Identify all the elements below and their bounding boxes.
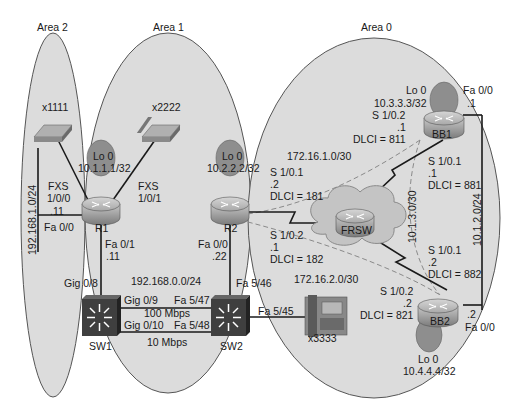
area-2-label: Area 2 <box>37 21 68 33</box>
r2-s101-host: .2 <box>270 178 279 190</box>
r1-fa01-label: Fa 0/1 <box>105 238 135 250</box>
r2-fa00-host: .22 <box>212 250 227 262</box>
sw2-fa548-label: Fa 5/48 <box>174 319 210 331</box>
frsw-label: FRSW <box>341 224 372 236</box>
switch-sw2[interactable] <box>211 295 250 336</box>
sw2-fa545-label: Fa 5/45 <box>258 305 294 317</box>
bb2-loopback-label: Lo 0 <box>418 353 438 365</box>
fr-r2-bb2-subnet: 172.16.2.0/30 <box>294 273 358 285</box>
phone-x3333[interactable] <box>305 295 347 337</box>
sw2-label: SW2 <box>220 340 243 352</box>
sw1-label: SW1 <box>89 340 112 352</box>
area-1-label: Area 1 <box>153 21 184 33</box>
r2-loopback-label: Lo 0 <box>222 150 242 162</box>
sw1-gig010-label: Gig 0/10 <box>124 319 164 331</box>
r2-s102-host: .1 <box>270 241 279 253</box>
bb1-s102-dlci: DLCI = 811 <box>353 133 406 145</box>
r2-fa00-label: Fa 0/0 <box>198 238 228 250</box>
bb1-s101-name: S 1/0.1 <box>428 155 461 167</box>
bb1-fa00-label: Fa 0/0 <box>463 84 493 96</box>
area1-subnet-label: 192.168.0.0/24 <box>131 275 201 287</box>
bb2-s101-host: .2 <box>428 256 437 268</box>
r2-s101-name: S 1/0.1 <box>270 166 303 178</box>
bb1-s102-name: S 1/0.2 <box>372 109 405 121</box>
bb2-s102-name: S 1/0.2 <box>380 285 413 297</box>
bb2-fa00-label: Fa 0/0 <box>465 321 495 333</box>
bb2-s102-host: .2 <box>403 297 412 309</box>
fr-bb1-bb2-subnet: 10.1.3.0/30 <box>406 190 418 243</box>
network-topology-diagram <box>0 0 519 399</box>
r1-label: R1 <box>95 222 108 234</box>
r1-fxs-101-line1: FXS <box>138 180 158 192</box>
bb-lan-subnet: 10.1.2.0/24 <box>471 193 483 246</box>
r1-fa00-label: Fa 0/0 <box>44 221 74 233</box>
sw2-fa547-label: Fa 5/47 <box>174 294 210 306</box>
trunk2-speed-label: 10 Mbps <box>147 336 187 348</box>
sw1-gig09-label: Gig 0/9 <box>124 294 158 306</box>
bb1-s101-host: .1 <box>428 167 437 179</box>
r1-fxs-101-line2: 1/0/1 <box>138 192 161 204</box>
r2-s102-dlci: DLCI = 182 <box>270 253 323 265</box>
bb1-label: BB1 <box>432 128 452 140</box>
r2-label: R2 <box>224 222 237 234</box>
phone-x2222-label: x2222 <box>152 101 181 113</box>
trunk1-speed-label: 100 Mbps <box>144 307 190 319</box>
r1-loopback-ip: 10.1.1.1/32 <box>78 162 131 174</box>
r1-fxs-100-line2: 1/0/0 <box>47 192 70 204</box>
phone-x3333-label: x3333 <box>308 332 337 344</box>
bb2-s101-name: S 1/0.1 <box>428 244 461 256</box>
bb1-s101-dlci: DLCI = 881 <box>428 179 481 191</box>
bb2-fa00-host: .2 <box>467 308 476 320</box>
switch-sw1[interactable] <box>82 295 121 336</box>
bb1-loopback-label: Lo 0 <box>406 84 426 96</box>
bb2-label: BB2 <box>430 315 450 327</box>
bb1-fa00-host: .1 <box>467 97 476 109</box>
sw2-fa546-label: Fa 5/46 <box>236 277 272 289</box>
r2-s102-name: S 1/0.2 <box>270 229 303 241</box>
area-0-label: Area 0 <box>361 21 392 33</box>
r2-loopback-ip: 10.2.2.2/32 <box>207 162 260 174</box>
r1-fxs-100-host: .11 <box>50 205 64 217</box>
r1-fxs-100-line1: FXS <box>48 180 68 192</box>
phone-x1111-label: x1111 <box>42 101 68 113</box>
sw1-gig08-label: Gig 0/8 <box>64 277 98 289</box>
r1-fa01-host: .11 <box>106 250 120 262</box>
bb1-loopback-ip: 10.3.3.3/32 <box>374 97 427 109</box>
r2-s101-dlci: DLCI = 181 <box>270 190 323 202</box>
bb1-s102-host: .1 <box>397 121 406 133</box>
bb2-loopback-ip: 10.4.4.4/32 <box>403 365 456 377</box>
area2-subnet-label: 192.168.1.0/24 <box>26 185 38 255</box>
fr-r2-bb1-subnet: 172.16.1.0/30 <box>287 150 351 162</box>
r1-loopback-label: Lo 0 <box>93 150 113 162</box>
bb2-s102-dlci: DLCI = 821 <box>360 309 413 321</box>
bb2-s101-dlci: DLCI = 882 <box>428 268 481 280</box>
